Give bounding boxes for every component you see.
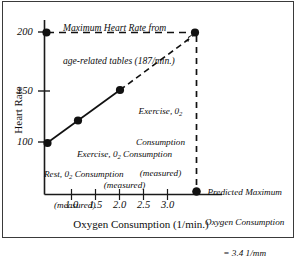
annotation-exercise-upper-line1: Exercise, 02 — [136, 106, 185, 117]
subscript-two: 2 — [179, 109, 182, 116]
annotation-rest-text: Rest, 0 — [44, 169, 69, 179]
data-point-max-hr-axis — [42, 28, 50, 36]
y-axis-title: Heart Rate — [12, 75, 24, 145]
data-point-exercise-low — [74, 116, 82, 124]
annotation-rest: Rest, 02 Consumption (measured) — [44, 148, 124, 231]
annotation-predicted-line1: Predicted Maximum — [205, 187, 284, 197]
data-point-intersection — [191, 28, 199, 36]
annotation-rest-line1: Rest, 02 Consumption — [44, 169, 124, 180]
annotation-rest-line2: (measured) — [44, 200, 124, 210]
annotation-max-heart-rate-line2: age-related tables (187/min.) — [63, 56, 175, 67]
data-point-rest — [43, 139, 51, 147]
annotation-max-heart-rate-line1: Maximum Heart Rate from — [63, 23, 175, 34]
annotation-rest-text-post: Consumption — [72, 169, 123, 179]
y-tick-label-200: 200 — [17, 26, 33, 37]
annotation-exercise-lower-text-post: Consumption — [121, 149, 172, 159]
annotation-predicted-vo2max: Predicted Maximum Oxygen Consumption = 3… — [205, 166, 284, 260]
annotation-max-heart-rate: Maximum Heart Rate from age-related tabl… — [63, 2, 175, 88]
annotation-predicted-line3: = 3.4 1/mm — [205, 248, 284, 258]
annotation-predicted-line2: Oxygen Consumption — [205, 217, 284, 227]
annotation-exercise-upper-text: Exercise, 0 — [139, 106, 179, 116]
data-point-predicted-vo2max — [192, 187, 201, 196]
